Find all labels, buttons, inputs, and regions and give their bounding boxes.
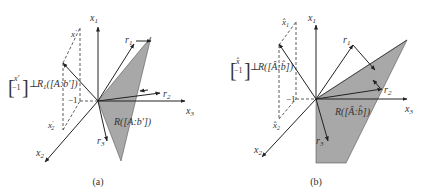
caption-b: (b)	[310, 176, 322, 188]
r2-label-a: r2	[163, 88, 171, 101]
vector-top-entry: x̂	[235, 57, 240, 66]
perp-rest: R([Â:b̂])	[257, 60, 294, 73]
minus-one-label-a: −1	[68, 95, 78, 105]
vector-top-entry: x′	[13, 74, 20, 83]
x3-label-a: x3	[185, 105, 194, 118]
x2-label-a: x2	[35, 147, 44, 160]
figure-canvas: x1 x3 x2 r1 r2 r3 x′ x′2 −1 [ x′ −1 ] ⊥ …	[0, 0, 423, 193]
shaded-region-a	[98, 37, 151, 161]
r1-label-a: r1	[125, 34, 132, 47]
x1-component-label-a: x′	[70, 28, 77, 39]
x1-component-label-b: x̂1	[281, 17, 289, 28]
shaded-region-b	[316, 40, 407, 163]
r1-label-b: r1	[343, 34, 350, 47]
minus-one-label-b: −1	[286, 94, 296, 104]
panel-a: x1 x3 x2 r1 r2 r3 x′ x′2 −1 [ x′ −1 ] ⊥ …	[8, 12, 194, 188]
x1-label-b: x1	[307, 12, 316, 25]
perp-rest: R1([A:b′])	[36, 78, 78, 91]
bracket-right: ]	[22, 76, 29, 98]
caption-a: (a)	[92, 176, 103, 188]
r1-projection-arrow-b	[353, 45, 375, 70]
perp-label-b: [ x̂ −1 ] ⊥ R([Â:b̂])	[230, 57, 294, 81]
region-label-a: R([A:b′])	[113, 116, 152, 128]
x1-label-a: x1	[89, 12, 98, 25]
x3-label-b: x3	[404, 103, 413, 116]
r2-projection-arrow-a	[140, 90, 148, 91]
x2-label-b: x2	[253, 144, 262, 157]
vector-bottom-entry: −1	[234, 66, 243, 75]
r2-label-b: r2	[384, 84, 392, 97]
x2-component-label-b: x̂2	[272, 120, 280, 131]
r3-label-a: r3	[97, 135, 105, 148]
vector-bottom-entry: −1	[12, 83, 21, 92]
panel-b: x1 x3 x2 r1 r2 r3 x̂1 x̂2 −1 [ x̂ −1 ] ⊥…	[230, 12, 413, 188]
x2-component-label-a: x′2	[47, 120, 54, 131]
x2-axis-a	[45, 101, 98, 162]
region-label-b: R([Â:b̂])	[334, 105, 371, 118]
